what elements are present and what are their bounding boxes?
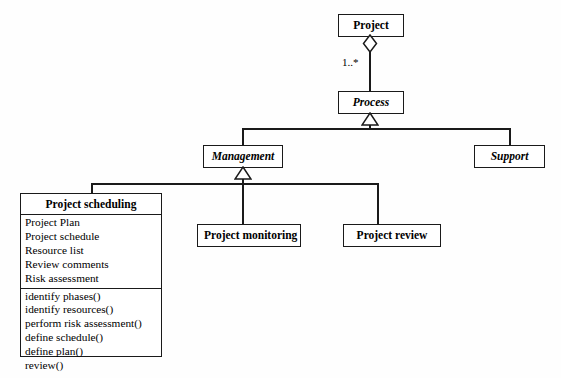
connector-monitoring-riser [242, 183, 244, 225]
operation-item: identify phases() [21, 290, 161, 304]
attribute-item: Review comments [21, 258, 161, 272]
connector-support-riser [509, 128, 511, 146]
attributes-compartment: Project Plan Project schedule Resource l… [21, 214, 161, 287]
class-name-process: Process [339, 92, 403, 112]
operation-item: identify resources() [21, 303, 161, 317]
class-box-project-review[interactable]: Project review [343, 224, 441, 247]
attribute-item: Project Plan [21, 216, 161, 230]
generalization-triangle-icon-process [361, 112, 379, 126]
generalization-triangle-icon-management [234, 166, 252, 180]
class-box-management[interactable]: Management [203, 145, 283, 168]
attribute-item: Resource list [21, 244, 161, 258]
class-box-process[interactable]: Process [338, 91, 404, 114]
class-name-management: Management [204, 146, 282, 166]
class-name-project-scheduling: Project scheduling [21, 194, 161, 214]
multiplicity-label: 1..* [342, 56, 359, 68]
class-name-project: Project [339, 15, 403, 35]
connector-review-riser [377, 183, 379, 225]
aggregation-diamond-icon [362, 34, 378, 53]
connector-process-bus [242, 128, 511, 130]
class-box-project-scheduling[interactable]: Project scheduling Project Plan Project … [20, 193, 162, 357]
operations-compartment: identify phases() identify resources() p… [21, 288, 161, 375]
connector-management-bus [91, 183, 378, 185]
operation-item: define schedule() [21, 331, 161, 345]
operation-item: define plan() [21, 345, 161, 359]
class-name-support: Support [475, 146, 544, 166]
operation-item: review() [21, 359, 161, 373]
class-box-support[interactable]: Support [474, 145, 545, 168]
class-name-project-monitoring: Project monitoring [198, 225, 300, 245]
connector-management-riser [242, 128, 244, 146]
uml-class-diagram-canvas: 1..* Project Process Management Support … [0, 0, 561, 378]
class-box-project-monitoring[interactable]: Project monitoring [197, 224, 301, 247]
operation-item: perform risk assessment() [21, 317, 161, 331]
attribute-item: Risk assessment [21, 272, 161, 286]
attribute-item: Project schedule [21, 230, 161, 244]
class-name-project-review: Project review [344, 225, 440, 245]
